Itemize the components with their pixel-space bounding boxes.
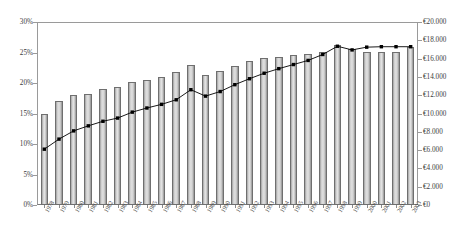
left-axis-tick-label: 20% bbox=[0, 79, 33, 87]
right-axis-tick-mark bbox=[418, 59, 422, 60]
right-axis-tick-label: €8.000 bbox=[423, 128, 443, 136]
left-axis-tick-mark bbox=[33, 205, 37, 206]
bar bbox=[216, 71, 224, 205]
left-axis-tick-mark bbox=[33, 114, 37, 115]
left-axis-tick-mark bbox=[33, 53, 37, 54]
right-axis-tick-label: €6.000 bbox=[423, 146, 443, 154]
left-axis-tick-label: 30% bbox=[0, 18, 33, 26]
bar bbox=[84, 94, 92, 205]
right-axis-tick-mark bbox=[418, 114, 422, 115]
left-axis-tick-mark bbox=[33, 83, 37, 84]
right-axis-tick-label: €20.000 bbox=[423, 18, 446, 26]
bar bbox=[172, 72, 180, 205]
right-axis-tick-label: €10.000 bbox=[423, 110, 446, 118]
bar bbox=[158, 77, 166, 205]
bar bbox=[246, 61, 254, 205]
bar bbox=[260, 58, 268, 205]
bar bbox=[334, 45, 342, 205]
bar bbox=[378, 52, 386, 205]
right-axis-tick-mark bbox=[418, 22, 422, 23]
bar bbox=[187, 65, 195, 205]
bar bbox=[392, 52, 400, 205]
bar bbox=[99, 89, 107, 205]
bar bbox=[407, 47, 415, 205]
combo-chart: 0%5%10%15%20%25%30% €0€2.000€4.000€6.000… bbox=[0, 0, 470, 250]
bar bbox=[275, 57, 283, 205]
right-axis-tick-label: €2.000 bbox=[423, 183, 443, 191]
bar bbox=[202, 75, 210, 205]
right-axis-tick-mark bbox=[418, 187, 422, 188]
right-axis-tick-label: €16.000 bbox=[423, 55, 446, 63]
bar bbox=[290, 55, 298, 205]
bar bbox=[114, 87, 122, 205]
left-axis-tick-label: 10% bbox=[0, 140, 33, 148]
right-axis-tick-mark bbox=[418, 132, 422, 133]
right-axis-tick-label: €12.000 bbox=[423, 91, 446, 99]
bar bbox=[363, 52, 371, 205]
right-axis-tick-mark bbox=[418, 40, 422, 41]
bar bbox=[70, 95, 78, 205]
bar bbox=[348, 49, 356, 205]
right-axis-tick-mark bbox=[418, 150, 422, 151]
right-axis-tick-label: €18.000 bbox=[423, 36, 446, 44]
right-axis-tick-mark bbox=[418, 168, 422, 169]
left-axis-tick-mark bbox=[33, 144, 37, 145]
right-axis-tick-mark bbox=[418, 95, 422, 96]
bar bbox=[319, 52, 327, 205]
right-axis-tick-label: €4.000 bbox=[423, 164, 443, 172]
left-axis-tick-label: 5% bbox=[0, 171, 33, 179]
right-axis-tick-mark bbox=[418, 77, 422, 78]
right-axis-tick-label: €0 bbox=[423, 201, 430, 209]
right-axis-tick-label: €14.000 bbox=[423, 73, 446, 81]
bar bbox=[231, 66, 239, 205]
bar bbox=[55, 101, 63, 205]
plot-area bbox=[37, 22, 418, 205]
bar bbox=[304, 54, 312, 205]
bar bbox=[143, 80, 151, 205]
left-axis-tick-label: 0% bbox=[0, 201, 33, 209]
bar bbox=[41, 114, 49, 206]
left-axis-tick-label: 15% bbox=[0, 110, 33, 118]
left-axis-tick-mark bbox=[33, 22, 37, 23]
bar bbox=[128, 82, 136, 205]
left-axis-tick-label: 25% bbox=[0, 49, 33, 57]
left-axis-tick-mark bbox=[33, 175, 37, 176]
